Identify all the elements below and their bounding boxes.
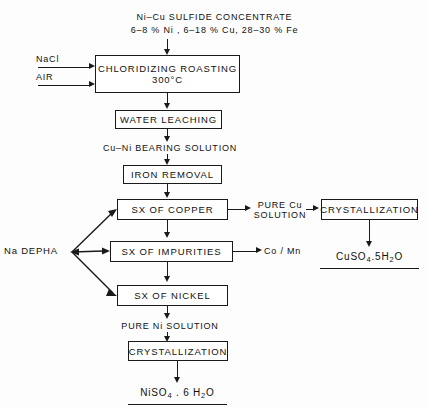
stream-label-pure-ni-solution: PURE Ni SOLUTION <box>0 321 340 332</box>
connector-sx-nickel-to-pure-ni-head <box>164 313 170 319</box>
process-box-crystallization-nickel[interactable]: CRYSTALLIZATION <box>128 341 228 361</box>
process-flow-diagram: Ni–Cu SULFIDE CONCENTRATE 6–8 % Ni , 6–1… <box>0 0 429 407</box>
product-nickel-sulfate: NiSO4 . 6 H2O <box>128 388 227 405</box>
product-formula-suffix: O <box>206 387 215 398</box>
connector-crystallization-to-niso4-head <box>174 377 180 383</box>
product-formula-mid: . 6 H <box>172 387 201 398</box>
box-label-line-1: CRYSTALLIZATION <box>129 346 228 357</box>
product-formula-prefix: NiSO <box>140 387 167 398</box>
connector-crystallization-to-niso4 <box>177 361 178 378</box>
